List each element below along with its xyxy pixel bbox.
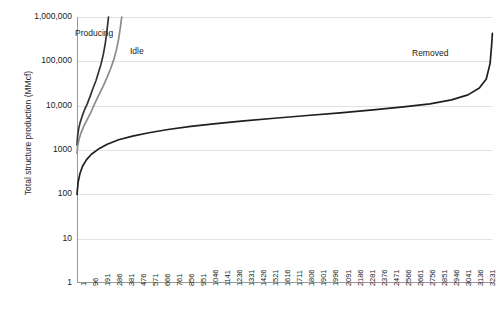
chart-curves: [0, 0, 502, 318]
series-line-producing: [77, 17, 109, 145]
series-line-idle: [77, 17, 122, 153]
series-line-removed: [77, 33, 492, 194]
chart-container: Total structure production (MMcf) 1,000,…: [0, 0, 502, 318]
